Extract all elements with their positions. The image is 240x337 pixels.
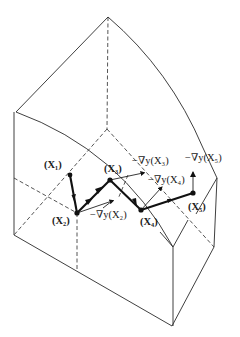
point-x5 [190, 190, 195, 195]
arrow-icon-x4-x5 [167, 199, 174, 203]
gradient-arrow-x3 [110, 173, 143, 180]
label-x1: (X₁) [44, 159, 62, 171]
steepest-descent-diagram: (X₁) (X₂) (X₃) (X₄) (X₅) −∇y(X₂) −∇y(X₃)… [0, 0, 240, 337]
label-x3: (X₃) [104, 163, 122, 175]
gradient-arrow-x2-tip [103, 201, 112, 208]
edge-right-lower [172, 247, 214, 326]
edge-top-left [16, 17, 108, 112]
point-x3 [107, 177, 112, 182]
edge-bottom-left [14, 235, 172, 326]
edge-front-right-to-notch [160, 232, 173, 247]
gradient-label-x2: −∇y(X₂) [90, 209, 127, 221]
label-x4: (X₄) [140, 216, 158, 228]
gradient-label-x3: −∇y(X₃) [132, 155, 169, 167]
point-x4 [138, 207, 143, 212]
hidden-edge-vertical-top [107, 17, 108, 129]
gradient-label-x4: −∇y(X₄) [148, 174, 185, 186]
edge-front-notch [173, 220, 188, 247]
point-x1 [68, 173, 73, 178]
hidden-edge-left-mid [14, 178, 77, 213]
point-x2 [74, 210, 79, 215]
label-x5: (X₅) [188, 201, 206, 213]
path-segment-x1-x2 [70, 175, 77, 213]
edge-right-vertical [214, 178, 217, 247]
gradient-label-x5: −∇y(X₅) [185, 152, 222, 164]
label-x2: (X₂) [52, 215, 70, 227]
hidden-edges [14, 17, 214, 270]
edge-top-right-curve [108, 17, 203, 148]
